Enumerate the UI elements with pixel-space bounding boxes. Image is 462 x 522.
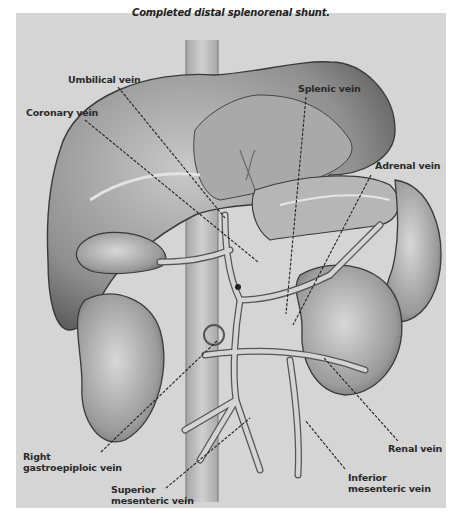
duodenum-icon xyxy=(77,294,163,442)
label-line-1: Right xyxy=(23,451,122,462)
label-superior-mesenteric-vein: Superior mesenteric vein xyxy=(111,484,194,506)
label-line-2: mesenteric vein xyxy=(111,495,194,506)
label-adrenal-vein: Adrenal vein xyxy=(375,160,440,171)
label-line-1: Superior xyxy=(111,484,194,495)
label-inferior-mesenteric-vein: Inferior mesenteric vein xyxy=(348,472,431,494)
label-line-2: gastroepiploic vein xyxy=(23,462,122,473)
label-line-2: mesenteric vein xyxy=(348,483,431,494)
label-umbilical-vein: Umbilical vein xyxy=(68,74,141,85)
label-coronary-vein: Coronary vein xyxy=(26,107,98,118)
inferior-mesenteric-leader xyxy=(305,420,345,469)
label-splenic-vein: Splenic vein xyxy=(298,83,361,94)
label-renal-vein: Renal vein xyxy=(388,443,442,454)
label-line-1: Inferior xyxy=(348,472,431,483)
label-right-gastroepiploic-vein: Right gastroepiploic vein xyxy=(23,451,122,473)
